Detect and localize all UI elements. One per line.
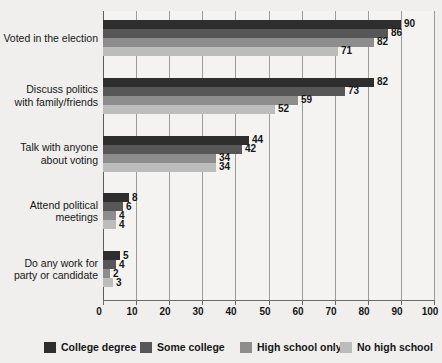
bar-row: 4	[103, 260, 434, 269]
legend-item[interactable]: College degree	[44, 339, 136, 355]
bar-chart: 90868271827359524442343486445423 Voted i…	[0, 0, 442, 363]
bar[interactable]	[103, 78, 374, 87]
legend-label: Some college	[157, 342, 225, 353]
tick-label-40: 40	[225, 306, 236, 317]
category-label-line: Attend political	[30, 199, 98, 212]
bar[interactable]	[103, 47, 338, 56]
bar-row: 73	[103, 87, 434, 96]
category-label-line: about voting	[20, 154, 98, 167]
bar[interactable]	[103, 105, 275, 114]
bar-row: 34	[103, 154, 434, 163]
tick-label-10: 10	[126, 306, 137, 317]
tick-label-80: 80	[358, 306, 369, 317]
plot-area: 90868271827359524442343486445423	[103, 11, 434, 300]
bar[interactable]	[103, 163, 216, 172]
category-label-line: Talk with anyone	[20, 141, 98, 154]
tick-label-20: 20	[159, 306, 170, 317]
bar-value-label: 71	[338, 46, 352, 56]
tick-mark-20	[169, 300, 170, 305]
bar-row: 71	[103, 47, 434, 56]
tick-mark-40	[235, 300, 236, 305]
category-label: Talk with anyoneabout voting	[20, 141, 98, 166]
category-label-line: with family/friends	[15, 96, 98, 109]
bar-value-label: 3	[113, 278, 122, 288]
legend-label: No high school	[357, 342, 433, 353]
bar-row: 4	[103, 220, 434, 229]
bar-row: 82	[103, 38, 434, 47]
bar-row: 8	[103, 193, 434, 202]
bar-row: 52	[103, 105, 434, 114]
tick-label-50: 50	[259, 306, 270, 317]
bar-row: 6	[103, 202, 434, 211]
category-label-line: Do any work for	[14, 257, 98, 270]
bar-row: 90	[103, 20, 434, 29]
tick-label-0: 0	[96, 306, 102, 317]
bar[interactable]	[103, 29, 388, 38]
bar[interactable]	[103, 20, 401, 29]
bar-group: 8644	[103, 193, 434, 229]
tick-mark-80	[368, 300, 369, 305]
tick-mark-90	[401, 300, 402, 305]
category-label: Attend politicalmeetings	[30, 199, 98, 224]
legend-swatch	[44, 342, 56, 353]
bar-row: 4	[103, 211, 434, 220]
bar[interactable]	[103, 38, 374, 47]
category-label-line: Voted in the election	[3, 32, 98, 45]
bar-group: 5423	[103, 251, 434, 287]
tick-mark-50	[269, 300, 270, 305]
chart-legend: College degreeSome collegeHigh school on…	[0, 339, 442, 359]
bar-row: 59	[103, 96, 434, 105]
tick-label-100: 100	[422, 306, 439, 317]
bar-value-label: 86	[388, 28, 402, 38]
category-label-line: meetings	[30, 211, 98, 224]
category-label: Discuss politicswith family/friends	[15, 83, 98, 108]
bar[interactable]	[103, 211, 116, 220]
tick-mark-10	[136, 300, 137, 305]
legend-swatch	[340, 342, 352, 353]
category-label: Do any work forparty or candidate	[14, 257, 98, 282]
bar[interactable]	[103, 136, 249, 145]
tick-label-70: 70	[325, 306, 336, 317]
bar-value-label: 42	[242, 144, 256, 154]
bar-row: 2	[103, 269, 434, 278]
bar-value-label: 82	[374, 37, 388, 47]
bar-group: 90868271	[103, 20, 434, 56]
bar-value-label: 73	[345, 86, 359, 96]
legend-item[interactable]: High school only	[240, 339, 342, 355]
bar[interactable]	[103, 154, 216, 163]
legend-label: High school only	[257, 342, 342, 353]
bar[interactable]	[103, 220, 116, 229]
bar-value-label: 34	[216, 162, 230, 172]
tick-mark-100	[434, 300, 435, 305]
bar-value-label: 82	[374, 77, 388, 87]
bar-group: 44423434	[103, 136, 434, 172]
bar-row: 44	[103, 136, 434, 145]
bar-row: 34	[103, 163, 434, 172]
bar-row: 42	[103, 145, 434, 154]
legend-item[interactable]: No high school	[340, 339, 433, 355]
legend-label: College degree	[61, 342, 136, 353]
bar[interactable]	[103, 269, 110, 278]
bar-group: 82735952	[103, 78, 434, 114]
tick-label-60: 60	[292, 306, 303, 317]
bar-value-label: 59	[298, 95, 312, 105]
tick-label-30: 30	[192, 306, 203, 317]
tick-mark-60	[302, 300, 303, 305]
tick-mark-70	[335, 300, 336, 305]
bar-row: 5	[103, 251, 434, 260]
tick-label-90: 90	[391, 306, 402, 317]
bar-value-label: 4	[116, 220, 125, 230]
bar-value-label: 90	[401, 19, 415, 29]
bar-value-label: 52	[275, 104, 289, 114]
bar[interactable]	[103, 96, 298, 105]
category-label: Voted in the election	[3, 32, 98, 45]
bar[interactable]	[103, 278, 113, 287]
tick-mark-30	[202, 300, 203, 305]
legend-swatch	[240, 342, 252, 353]
category-label-line: party or candidate	[14, 269, 98, 282]
gridline-100	[434, 11, 435, 300]
tick-mark-0	[103, 300, 104, 305]
legend-swatch	[140, 342, 152, 353]
category-label-line: Discuss politics	[15, 83, 98, 96]
legend-item[interactable]: Some college	[140, 339, 225, 355]
